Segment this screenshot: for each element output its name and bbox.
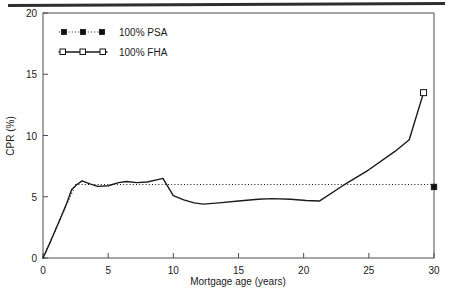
x-axis-tick-labels: 051015202530 <box>40 265 440 276</box>
x-tick-label: 15 <box>233 265 245 276</box>
legend-marker-fha-3 <box>100 49 106 55</box>
y-tick-label: 15 <box>26 69 38 80</box>
legend-label-psa: 100% PSA <box>119 27 168 38</box>
legend-marker-fha-2 <box>80 49 86 55</box>
legend-marker-psa-3 <box>100 30 105 35</box>
x-tick-label: 5 <box>105 265 111 276</box>
x-tick-label: 10 <box>168 265 180 276</box>
endpoint-marker-fha <box>421 90 427 96</box>
x-axis-title: Mortgage age (years) <box>190 276 286 287</box>
y-tick-label: 0 <box>31 253 37 264</box>
legend-marker-psa-2 <box>81 30 86 35</box>
x-axis-ticks <box>43 253 434 258</box>
chart-legend: 100% PSA 100% FHA <box>59 27 168 58</box>
chart-series <box>43 93 434 258</box>
x-tick-label: 30 <box>428 265 440 276</box>
y-axis-title: CPR (%) <box>5 116 16 155</box>
legend-entry-psa: 100% PSA <box>59 27 168 38</box>
legend-label-fha: 100% FHA <box>119 47 168 58</box>
x-tick-label: 25 <box>363 265 375 276</box>
legend-marker-fha-1 <box>60 49 66 55</box>
x-tick-label: 20 <box>298 265 310 276</box>
y-tick-label: 10 <box>26 131 38 142</box>
y-axis-ticks <box>43 13 48 258</box>
series-line-psa <box>43 185 434 259</box>
chart-figure: 051015202530 05101520 100% PSA 100% FHA … <box>0 0 449 294</box>
chart-canvas: 051015202530 05101520 100% PSA 100% FHA … <box>0 0 449 294</box>
y-tick-label: 20 <box>26 8 38 19</box>
series-line-fha <box>43 93 424 258</box>
x-tick-label: 0 <box>40 265 46 276</box>
endpoint-marker-psa <box>431 184 437 190</box>
y-axis-tick-labels: 05101520 <box>26 8 38 264</box>
legend-entry-fha: 100% FHA <box>59 47 168 58</box>
y-tick-label: 5 <box>31 192 37 203</box>
legend-marker-psa-1 <box>62 30 67 35</box>
